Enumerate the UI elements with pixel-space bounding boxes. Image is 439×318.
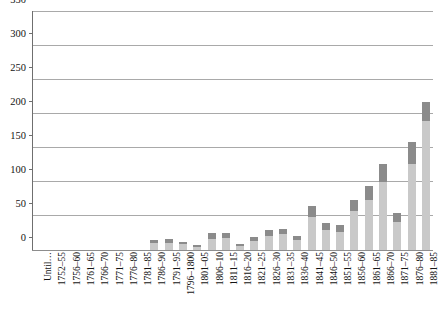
x-tick-label: 1781–85 [144,252,154,285]
bar-segment-lower [408,164,416,250]
bar-slot [379,12,387,250]
bar [250,237,258,250]
y-tick-label: 250 [0,63,26,73]
x-tick-label: 1851–55 [344,252,354,285]
bar [193,245,201,250]
y-tick-label: 50 [0,199,26,209]
bar-segment-lower [150,243,158,250]
x-tick-label: Until… [44,252,54,281]
bar-slot [265,12,273,250]
bar-segment-lower [165,243,173,250]
bar-slot [393,12,401,250]
bar [279,229,287,250]
bar [222,233,230,250]
x-tick-label: 1811–15 [230,252,240,285]
x-tick-label: 1776–80 [130,252,140,285]
bar [150,240,158,250]
bar-segment-upper [150,240,158,243]
bar [422,102,430,250]
x-tick-label: 1786–90 [158,252,168,285]
bar-segment-upper [179,242,187,244]
x-axis-labels: Until…1752–551756–601761–651766–701771–7… [33,252,433,318]
bar-segment-lower [393,222,401,250]
bar-segment-lower [279,234,287,250]
x-tick-label: 1871–75 [401,252,411,285]
bar-segment-upper [193,245,201,247]
bar-segment-upper [222,233,230,238]
bar-slot [308,12,316,250]
bar [393,213,401,250]
x-tick-label: 1752–55 [58,252,68,285]
bar [293,236,301,250]
bar-segment-upper [379,164,387,182]
bar-segment-upper [279,229,287,234]
x-tick-label: 1791–95 [173,252,183,285]
x-tick-label: 1771–75 [116,252,126,285]
bar-segment-upper [165,239,173,242]
bar-slot [179,12,187,250]
bar-slot [336,12,344,250]
x-tick-label: 1881–85 [430,252,439,285]
bar-segment-upper [393,213,401,223]
bar-slot [408,12,416,250]
y-axis-ticks: 050100150200250300350 [0,0,30,238]
x-tick-label: 1861–65 [373,252,383,285]
bar-segment-lower [208,239,216,250]
bar [350,200,358,250]
bar-segment-upper [422,102,430,121]
bar [208,233,216,250]
x-tick-label: 1876–80 [416,252,426,285]
bar-segment-lower [179,244,187,250]
bar [379,164,387,250]
bar-segment-lower [250,241,258,250]
bar-slot [365,12,373,250]
bar-segment-upper [365,186,373,200]
bar-slot [193,12,201,250]
bar-segment-upper [408,142,416,164]
bar-segment-lower [322,230,330,250]
x-tick-label: 1816–20 [244,252,254,285]
bar [365,186,373,250]
x-tick-label: 1761–65 [87,252,97,285]
x-tick-label: 1846–50 [330,252,340,285]
x-tick-label: 1821–25 [258,252,268,285]
bar-slot [122,12,130,250]
bar [322,223,330,250]
y-tick-label: 150 [0,131,26,141]
bar-segment-upper [236,244,244,246]
bar-slot [279,12,287,250]
x-tick-label: 1756–60 [73,252,83,285]
bar-segment-upper [250,237,258,241]
bar-slot [422,12,430,250]
x-tick-label: 1866–70 [387,252,397,285]
bar-segment-upper [350,200,358,212]
bar-segment-lower [308,217,316,250]
bar-segment-lower [350,211,358,250]
bar-segment-lower [365,200,373,250]
bar-slot [236,12,244,250]
bar-slot [93,12,101,250]
bar [236,244,244,250]
x-tick-label: 1796–1800 [187,252,197,295]
bar-slot [150,12,158,250]
bar-slot [136,12,144,250]
bar-segment-lower [336,232,344,250]
bar [165,239,173,250]
bar-segment-lower [422,121,430,250]
bar-slot [293,12,301,250]
bar-slot [208,12,216,250]
bar [265,230,273,250]
bar-segment-upper [308,206,316,218]
bar-segment-lower [236,246,244,250]
bar-slot [250,12,258,250]
x-tick-label: 1831–35 [287,252,297,285]
y-tick-label: 350 [0,0,26,5]
x-tick-label: 1766–70 [101,252,111,285]
bar-segment-lower [265,236,273,250]
y-tick-label: 0 [0,233,26,243]
bar-segment-upper [208,233,216,239]
bar-segment-upper [322,223,330,230]
x-axis-line [32,250,433,251]
bar-segment-upper [293,236,301,240]
